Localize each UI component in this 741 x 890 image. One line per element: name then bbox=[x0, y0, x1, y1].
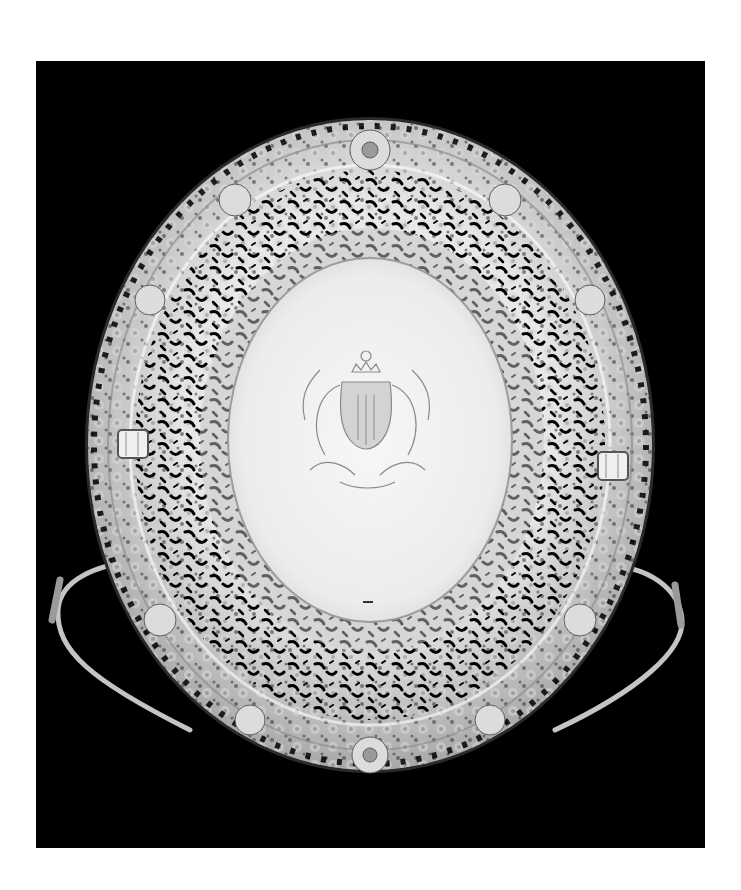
left-knop bbox=[118, 430, 148, 458]
silver-dish-photo bbox=[0, 0, 741, 890]
right-knop bbox=[598, 452, 628, 480]
